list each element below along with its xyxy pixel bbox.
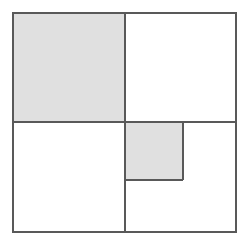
figure-canvas (0, 0, 248, 245)
region-inner-shaded-square-fill (125, 122, 183, 180)
geometric-figure-svg (0, 0, 248, 245)
region-top-left-quadrant-fill (13, 13, 125, 122)
